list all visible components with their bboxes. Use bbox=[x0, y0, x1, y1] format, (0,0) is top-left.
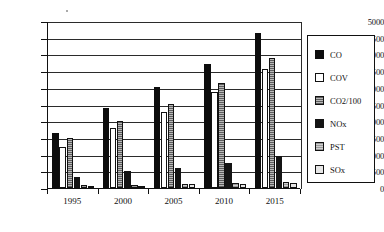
plot-right-edge bbox=[301, 22, 302, 189]
bar-COV-2005 bbox=[161, 112, 167, 188]
legend-label: COV bbox=[330, 73, 348, 83]
bar-CO2-100-2005 bbox=[168, 104, 174, 188]
bar-NOx-1995 bbox=[74, 177, 80, 188]
bar-PST-2010 bbox=[232, 183, 238, 188]
legend-label: PST bbox=[330, 142, 345, 152]
bar-CO2-100-1995 bbox=[67, 138, 73, 188]
bar-COV-2010 bbox=[211, 92, 217, 188]
legend-item-CO[interactable]: CO bbox=[315, 43, 374, 66]
x-axis-tick-label-2015: 2015 bbox=[266, 196, 284, 206]
legend-label: SOx bbox=[330, 165, 345, 175]
x-axis-tick-mark bbox=[249, 189, 250, 194]
bar-CO-2005 bbox=[154, 87, 160, 188]
bar-NOx-2005 bbox=[175, 168, 181, 188]
bar-COV-2000 bbox=[110, 128, 116, 188]
bar-group-2005 bbox=[154, 87, 196, 188]
bar-NOx-2000 bbox=[124, 171, 130, 188]
bar-CO2-100-2015 bbox=[269, 58, 275, 188]
bar-SOx-2010 bbox=[240, 184, 246, 188]
y-axis-tick-label: 5000 bbox=[344, 17, 384, 27]
legend-label: CO2/100 bbox=[330, 96, 361, 106]
legend-swatch-icon bbox=[315, 73, 324, 82]
x-axis-tick-mark bbox=[47, 189, 48, 194]
y-axis-tick-label: 0 bbox=[344, 184, 384, 194]
bar-PST-2015 bbox=[283, 182, 289, 188]
bar-PST-2000 bbox=[131, 185, 137, 188]
bar-CO-1995 bbox=[52, 133, 58, 188]
legend-item-COV[interactable]: COV bbox=[315, 66, 374, 89]
bar-CO-2015 bbox=[255, 33, 261, 188]
legend-label: NOx bbox=[330, 119, 347, 129]
legend-label: CO bbox=[330, 50, 342, 60]
legend-item-NOx[interactable]: NOx bbox=[315, 112, 374, 135]
legend-swatch-icon bbox=[315, 165, 324, 174]
bar-group-2010 bbox=[204, 64, 246, 188]
chart-figure: 5000450040003500300025002000150010005000… bbox=[0, 0, 384, 232]
legend-swatch-icon bbox=[315, 96, 324, 105]
x-axis-tick-label-2000: 2000 bbox=[114, 196, 132, 206]
x-axis-tick-label-2005: 2005 bbox=[165, 196, 183, 206]
bar-SOx-2005 bbox=[189, 184, 195, 188]
bar-CO2-100-2010 bbox=[218, 83, 224, 188]
legend-swatch-icon bbox=[315, 119, 324, 128]
bar-group-2000 bbox=[103, 108, 145, 188]
bar-NOx-2010 bbox=[225, 163, 231, 188]
bar-NOx-2015 bbox=[276, 156, 282, 188]
bar-CO2-100-2000 bbox=[117, 121, 123, 188]
bar-SOx-2015 bbox=[290, 183, 296, 188]
bar-CO-2000 bbox=[103, 108, 109, 188]
bar-group-1995 bbox=[52, 133, 94, 188]
x-axis-tick-label-1995: 1995 bbox=[63, 196, 81, 206]
plot-area bbox=[47, 22, 300, 189]
bar-SOx-2000 bbox=[138, 186, 144, 188]
x-axis-tick-mark bbox=[300, 189, 301, 194]
bar-group-2015 bbox=[255, 33, 297, 188]
legend-swatch-icon bbox=[315, 50, 324, 59]
legend-swatch-icon bbox=[315, 142, 324, 151]
legend-item-SOx[interactable]: SOx bbox=[315, 158, 374, 181]
chart-legend: COCOVCO2/100NOxPSTSOx bbox=[307, 35, 375, 183]
legend-item-PST[interactable]: PST bbox=[315, 135, 374, 158]
bar-SOx-1995 bbox=[88, 186, 94, 188]
bar-PST-2005 bbox=[182, 184, 188, 188]
gridline bbox=[48, 22, 301, 23]
x-axis-tick-mark bbox=[148, 189, 149, 194]
bar-COV-2015 bbox=[262, 69, 268, 188]
bar-COV-1995 bbox=[59, 147, 65, 188]
scan-speck-artifact bbox=[66, 10, 68, 12]
x-axis-tick-mark bbox=[199, 189, 200, 194]
legend-item-CO2-100[interactable]: CO2/100 bbox=[315, 89, 374, 112]
bar-PST-1995 bbox=[81, 185, 87, 188]
x-axis-tick-mark bbox=[98, 189, 99, 194]
x-axis-tick-label-2010: 2010 bbox=[215, 196, 233, 206]
bar-CO-2010 bbox=[204, 64, 210, 188]
